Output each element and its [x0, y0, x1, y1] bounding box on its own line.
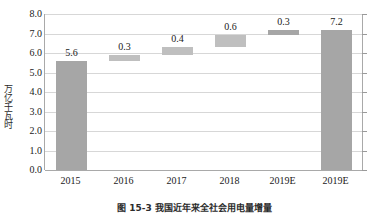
bar-2 [162, 47, 193, 55]
bar-3 [215, 35, 246, 47]
x-axis-tick-label: 2015 [44, 175, 97, 186]
y-axis-tick-label: 8.0 [15, 9, 42, 19]
gridline [45, 131, 363, 132]
y-axis-title: 万亿千瓦时 [0, 46, 16, 166]
bar-4 [268, 30, 299, 36]
y-axis-tick-label: 7.0 [15, 29, 42, 39]
bar-value-label: 7.2 [309, 17, 364, 27]
gridline [45, 14, 363, 15]
right-axis-tick [362, 92, 367, 93]
y-axis-tick-label: 4.0 [15, 87, 42, 97]
y-axis-tick-labels: 8.07.06.05.04.03.02.01.00.0 [15, 14, 42, 170]
bar-1 [109, 55, 140, 61]
y-axis-tick-label: 3.0 [15, 107, 42, 117]
y-axis-tick-label: 6.0 [15, 48, 42, 58]
y-axis-tick-label: 2.0 [15, 126, 42, 136]
right-axis-tick [362, 73, 367, 74]
x-axis-tick-labels: 20152016201720182019E2019E [44, 175, 362, 189]
figure-caption: 图 15-3 我国近年来全社会用电量增量 [0, 203, 389, 214]
x-axis-tick-label: 2019E [309, 175, 362, 186]
bar-value-label: 5.6 [44, 48, 99, 58]
x-axis-tick-label: 2019E [256, 175, 309, 186]
bar-value-label: 0.4 [150, 34, 205, 44]
gridline [45, 151, 363, 152]
chart-figure: 万亿千瓦时 8.07.06.05.04.03.02.01.00.0 5.60.3… [0, 0, 389, 215]
right-axis-tick [362, 34, 367, 35]
x-axis-tick-label: 2017 [150, 175, 203, 186]
bar-value-label: 0.3 [97, 42, 152, 52]
plot-area: 5.60.30.40.60.37.2 [44, 14, 363, 170]
right-axis-tick [362, 151, 367, 152]
gridline [45, 92, 363, 93]
bar-5 [321, 30, 352, 170]
y-axis-tick-label: 5.0 [15, 68, 42, 78]
right-axis-ticks [362, 14, 368, 171]
y-axis-tick-label: 1.0 [15, 146, 42, 156]
right-axis-tick [362, 131, 367, 132]
bar-value-label: 0.3 [256, 17, 311, 27]
right-axis-tick [362, 170, 367, 171]
y-axis-tick-label: 0.0 [15, 165, 42, 175]
gridline [45, 112, 363, 113]
gridline [45, 73, 363, 74]
right-axis-tick [362, 14, 367, 15]
right-axis-tick [362, 112, 367, 113]
bar-0 [56, 61, 87, 170]
x-axis-line [45, 170, 363, 171]
right-axis-tick [362, 53, 367, 54]
bar-value-label: 0.6 [203, 22, 258, 32]
x-axis-tick-label: 2018 [203, 175, 256, 186]
x-axis-tick-label: 2016 [97, 175, 150, 186]
